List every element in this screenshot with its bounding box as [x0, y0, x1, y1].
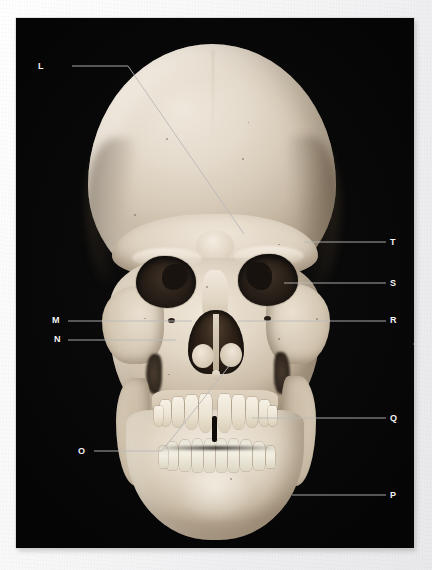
skull-photograph: LTSMNROQP — [16, 18, 414, 548]
leader-line-o — [94, 365, 230, 451]
label-overlay — [16, 18, 414, 548]
leader-lines — [68, 66, 386, 495]
leader-line-l — [72, 66, 244, 234]
photo-speck — [413, 343, 414, 345]
